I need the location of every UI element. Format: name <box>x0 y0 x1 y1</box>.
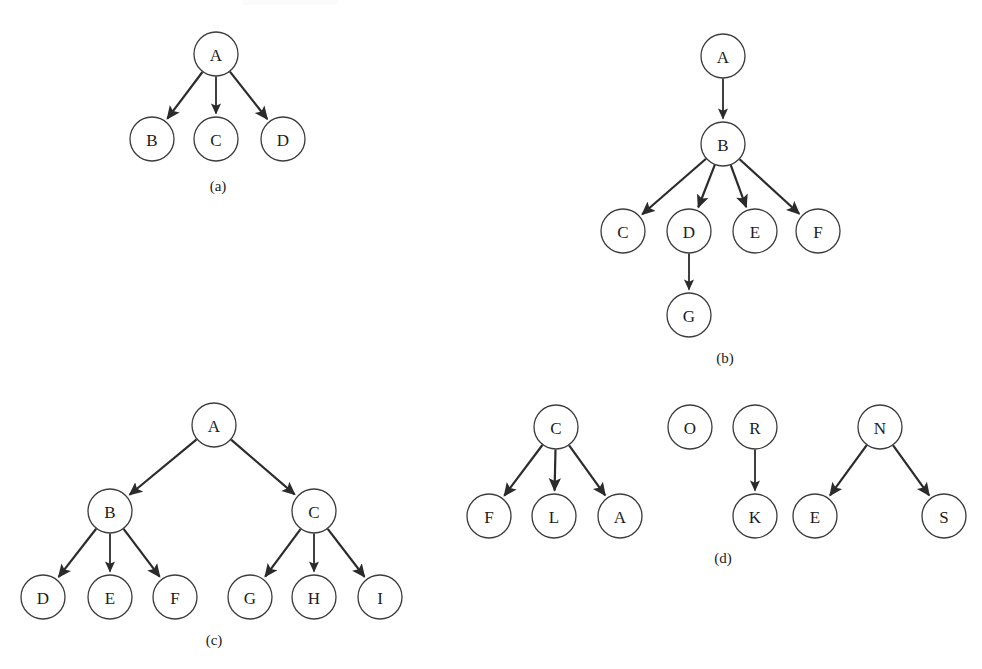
node-label: F <box>170 589 179 608</box>
node-label: I <box>377 589 383 608</box>
node-label: B <box>717 136 728 155</box>
edge-d-N1-to-S1 <box>893 445 929 495</box>
node-label: F <box>484 508 493 527</box>
node-label: D <box>37 589 49 608</box>
panels-layer: ABCD(a)ABCDEFG(b)ABCDEFGHI(c)CFLAORKNES(… <box>21 32 966 649</box>
node-label: C <box>617 223 628 242</box>
panel-caption-a: (a) <box>210 178 227 195</box>
nodes-b: ABCDEFG <box>601 34 840 337</box>
node-label: G <box>244 589 256 608</box>
panel-caption-c: (c) <box>206 632 223 649</box>
node-a-B[interactable]: B <box>130 117 174 161</box>
node-label: E <box>810 508 820 527</box>
node-label: L <box>549 508 559 527</box>
panel-b: ABCDEFG(b) <box>601 34 840 367</box>
node-label: K <box>749 508 762 527</box>
node-b-G[interactable]: G <box>667 293 711 337</box>
edge-b-B-to-D <box>698 165 715 207</box>
edge-d-C1-to-L1 <box>555 449 556 490</box>
edge-a-A-to-D <box>230 72 267 119</box>
node-c-H[interactable]: H <box>292 575 336 619</box>
node-label: O <box>684 419 696 438</box>
node-b-F[interactable]: F <box>796 209 840 253</box>
node-label: S <box>939 508 948 527</box>
scan-artifact <box>243 0 338 5</box>
node-label: A <box>208 417 221 436</box>
edge-c-B-to-D <box>59 529 97 577</box>
node-label: D <box>683 223 695 242</box>
node-c-B[interactable]: B <box>88 489 132 533</box>
node-d-L1[interactable]: L <box>532 494 576 538</box>
node-b-A[interactable]: A <box>701 34 745 78</box>
node-d-F1[interactable]: F <box>467 494 511 538</box>
node-d-C1[interactable]: C <box>534 405 578 449</box>
node-label: E <box>105 589 115 608</box>
edges-a <box>167 72 267 119</box>
edge-c-C-to-I <box>328 529 365 577</box>
panel-caption-b: (b) <box>716 350 734 367</box>
edge-d-N1-to-E1 <box>830 445 867 495</box>
edge-d-C1-to-F1 <box>504 445 542 496</box>
panel-d: CFLAORKNES(d) <box>467 405 966 567</box>
panel-a: ABCD(a) <box>130 32 305 195</box>
node-label: A <box>210 46 223 65</box>
node-c-C[interactable]: C <box>292 489 336 533</box>
edge-d-C1-to-A1 <box>569 445 605 495</box>
node-label: G <box>683 307 695 326</box>
node-label: H <box>308 589 320 608</box>
node-label: C <box>210 131 221 150</box>
edge-c-B-to-F <box>124 529 160 577</box>
node-a-A[interactable]: A <box>194 32 238 76</box>
nodes-a: ABCD <box>130 32 305 161</box>
node-label: E <box>750 223 760 242</box>
panel-c: ABCDEFGHI(c) <box>21 403 402 649</box>
node-b-D[interactable]: D <box>667 209 711 253</box>
node-c-I[interactable]: I <box>358 575 402 619</box>
node-d-N1[interactable]: N <box>858 405 902 449</box>
edge-c-C-to-G <box>265 529 300 576</box>
node-c-F[interactable]: F <box>153 575 197 619</box>
node-d-A1[interactable]: A <box>598 494 642 538</box>
node-b-B[interactable]: B <box>701 122 745 166</box>
node-d-E1[interactable]: E <box>793 494 837 538</box>
edge-b-B-to-F <box>740 159 800 214</box>
node-d-O1[interactable]: O <box>668 405 712 449</box>
nodes-c: ABCDEFGHI <box>21 403 402 619</box>
node-b-E[interactable]: E <box>733 209 777 253</box>
node-label: B <box>104 503 115 522</box>
node-label: R <box>749 419 761 438</box>
edge-a-A-to-B <box>167 72 202 119</box>
edges-b <box>642 79 799 290</box>
node-b-C[interactable]: C <box>601 209 645 253</box>
node-d-R1[interactable]: R <box>733 405 777 449</box>
edges-d <box>504 445 929 496</box>
node-label: D <box>277 131 289 150</box>
node-label: N <box>874 419 886 438</box>
node-d-S1[interactable]: S <box>922 494 966 538</box>
node-label: A <box>614 508 627 527</box>
edge-b-B-to-C <box>642 159 706 214</box>
node-a-D[interactable]: D <box>261 117 305 161</box>
edge-b-B-to-E <box>731 165 746 207</box>
node-label: A <box>717 48 730 67</box>
node-label: F <box>813 223 822 242</box>
edge-c-A-to-B <box>130 439 197 494</box>
nodes-d: CFLAORKNES <box>467 405 966 538</box>
node-a-C[interactable]: C <box>194 117 238 161</box>
node-label: B <box>146 131 157 150</box>
edge-c-A-to-C <box>231 440 295 495</box>
node-c-D[interactable]: D <box>21 575 65 619</box>
node-c-G[interactable]: G <box>228 575 272 619</box>
node-label: C <box>550 419 561 438</box>
node-c-A[interactable]: A <box>192 403 236 447</box>
node-d-K1[interactable]: K <box>733 494 777 538</box>
tree-diagram-figure: ABCD(a)ABCDEFG(b)ABCDEFGHI(c)CFLAORKNES(… <box>0 0 982 669</box>
node-c-E[interactable]: E <box>88 575 132 619</box>
panel-caption-d: (d) <box>714 550 732 567</box>
node-label: C <box>308 503 319 522</box>
